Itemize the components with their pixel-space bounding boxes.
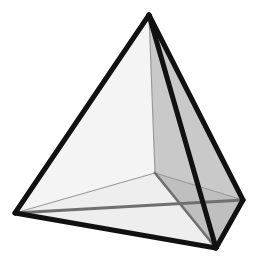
tetrahedron-canvas bbox=[0, 0, 259, 272]
tetrahedron-figure bbox=[0, 0, 259, 272]
